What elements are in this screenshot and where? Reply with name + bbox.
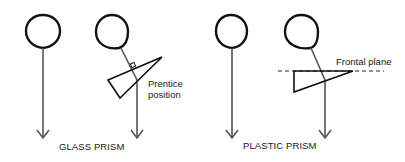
plastic-prism-triangle-icon: [294, 71, 353, 92]
glass-reference-eye: [26, 15, 60, 138]
ray-line: [311, 48, 325, 138]
plastic-reference-eye: [216, 15, 247, 138]
ray-line: [121, 48, 137, 138]
glass-prism-eye: [96, 15, 162, 138]
eye-icon: [285, 15, 318, 48]
prism-diagram: [0, 0, 405, 162]
eye-icon: [26, 15, 60, 48]
glass-prism-caption: GLASS PRISM: [59, 141, 125, 152]
label-line-1: Frontal plane: [336, 56, 391, 67]
plastic-prism-caption: PLASTIC PRISM: [243, 140, 317, 151]
prentice-position-label: Prentice position: [148, 78, 183, 100]
right-angle-marker-icon: [130, 62, 135, 67]
label-line-1: Prentice: [148, 78, 183, 89]
frontal-plane-label: Frontal plane: [336, 56, 391, 67]
eye-icon: [216, 15, 247, 48]
eye-icon: [96, 15, 128, 48]
label-line-2: position: [148, 89, 183, 100]
plastic-prism-eye: [278, 15, 384, 138]
